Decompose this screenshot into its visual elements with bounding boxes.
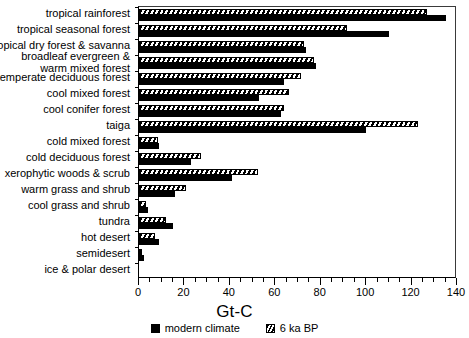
bar-modern-climate bbox=[139, 143, 159, 149]
bar-6-ka-bp bbox=[139, 169, 258, 175]
legend-label-6-ka-bp: 6 ka BP bbox=[280, 322, 319, 334]
x-axis-major-tick bbox=[183, 278, 184, 285]
x-axis-major-tick bbox=[320, 278, 321, 285]
category-label: tropical rainforest bbox=[46, 8, 130, 19]
category-label: semidesert bbox=[76, 248, 130, 259]
chart-legend: modern climate 6 ka BP bbox=[0, 322, 469, 334]
category-label: tundra bbox=[99, 216, 130, 227]
category-label: cold deciduous forest bbox=[26, 152, 130, 163]
legend-swatch-modern-climate-icon bbox=[151, 324, 160, 333]
y-axis-tick bbox=[135, 183, 139, 184]
category-label: warm grass and shrub bbox=[21, 184, 130, 195]
x-axis-minor-tick bbox=[172, 278, 173, 282]
y-axis-tick bbox=[135, 263, 139, 264]
category-label: cold mixed forest bbox=[47, 136, 130, 147]
bar-6-ka-bp bbox=[139, 185, 186, 191]
category-label: temperate deciduous forest bbox=[0, 72, 130, 83]
legend-item-6-ka-bp: 6 ka BP bbox=[266, 322, 319, 334]
x-axis-tick-label: 40 bbox=[223, 286, 235, 298]
bar-modern-climate bbox=[139, 127, 366, 133]
bar-modern-climate bbox=[139, 15, 446, 21]
x-axis-minor-tick bbox=[286, 278, 287, 282]
bar-6-ka-bp bbox=[139, 105, 284, 111]
bar-6-ka-bp bbox=[139, 73, 301, 79]
y-axis-tick bbox=[135, 39, 139, 40]
y-axis-tick bbox=[135, 23, 139, 24]
x-axis-tick-label: 20 bbox=[177, 286, 189, 298]
category-label: cool conifer forest bbox=[43, 104, 130, 115]
y-axis-tick bbox=[135, 55, 139, 56]
bar-group bbox=[139, 135, 455, 151]
bar-group bbox=[139, 263, 455, 279]
bar-group bbox=[139, 151, 455, 167]
x-axis-tick-labels: 020406080100120140 bbox=[118, 286, 469, 302]
bar-modern-climate bbox=[139, 95, 259, 101]
bar-group bbox=[139, 55, 455, 71]
bar-modern-climate bbox=[139, 31, 389, 37]
bar-group bbox=[139, 167, 455, 183]
y-axis-tick bbox=[135, 135, 139, 136]
bar-group bbox=[139, 119, 455, 135]
bar-modern-climate bbox=[139, 223, 173, 229]
y-axis-tick bbox=[135, 71, 139, 72]
bar-modern-climate bbox=[139, 191, 175, 197]
x-axis-major-tick bbox=[456, 278, 457, 285]
x-axis-minor-tick bbox=[161, 278, 162, 282]
x-axis-major-tick bbox=[365, 278, 366, 285]
x-axis-title: Gt-C bbox=[0, 302, 469, 322]
x-axis-minor-tick bbox=[149, 278, 150, 282]
bar-series-container bbox=[139, 7, 455, 277]
bar-group bbox=[139, 23, 455, 39]
x-axis-major-tick bbox=[138, 278, 139, 285]
y-axis-tick bbox=[135, 167, 139, 168]
bar-6-ka-bp bbox=[139, 201, 146, 207]
x-axis-major-tick bbox=[274, 278, 275, 285]
bar-group bbox=[139, 183, 455, 199]
bar-group bbox=[139, 71, 455, 87]
bar-group bbox=[139, 7, 455, 23]
x-axis-minor-tick bbox=[445, 278, 446, 282]
category-label: ice & polar desert bbox=[44, 264, 130, 275]
x-axis-major-tick bbox=[411, 278, 412, 285]
bar-modern-climate bbox=[139, 239, 159, 245]
x-axis-minor-tick bbox=[331, 278, 332, 282]
x-axis-tick-label: 120 bbox=[401, 286, 419, 298]
bar-6-ka-bp bbox=[139, 25, 347, 31]
category-label: tropical seasonal forest bbox=[17, 24, 130, 35]
bar-group bbox=[139, 87, 455, 103]
bar-modern-climate bbox=[139, 63, 316, 69]
x-axis-minor-tick bbox=[252, 278, 253, 282]
biome-carbon-bar-chart: tropical rainforesttropical seasonal for… bbox=[0, 0, 469, 338]
x-axis-minor-tick bbox=[297, 278, 298, 282]
bar-6-ka-bp bbox=[139, 9, 427, 15]
bar-modern-climate bbox=[139, 159, 191, 165]
bar-6-ka-bp bbox=[139, 41, 304, 47]
x-axis-minor-tick bbox=[218, 278, 219, 282]
x-axis-minor-tick bbox=[195, 278, 196, 282]
x-axis-tick-label: 0 bbox=[135, 286, 141, 298]
bar-6-ka-bp bbox=[139, 89, 289, 95]
x-axis-minor-tick bbox=[388, 278, 389, 282]
x-axis-tick-label: 60 bbox=[268, 286, 280, 298]
category-label: hot desert bbox=[81, 232, 130, 243]
x-axis-tick-label: 100 bbox=[356, 286, 374, 298]
category-label: cool mixed forest bbox=[47, 88, 130, 99]
x-axis-minor-tick bbox=[433, 278, 434, 282]
bar-6-ka-bp bbox=[139, 249, 142, 255]
bar-modern-climate bbox=[139, 255, 144, 261]
category-label: taiga bbox=[106, 120, 130, 131]
bar-group bbox=[139, 247, 455, 263]
x-axis-minor-tick bbox=[377, 278, 378, 282]
bar-modern-climate bbox=[139, 111, 281, 117]
y-axis-tick bbox=[135, 7, 139, 8]
bar-modern-climate bbox=[139, 79, 284, 85]
bar-group bbox=[139, 231, 455, 247]
category-label: xerophytic woods & scrub bbox=[5, 168, 130, 179]
x-axis-minor-tick bbox=[422, 278, 423, 282]
x-axis-tick-label: 80 bbox=[314, 286, 326, 298]
legend-swatch-6-ka-bp-icon bbox=[266, 324, 275, 333]
y-axis-tick bbox=[135, 199, 139, 200]
bar-group bbox=[139, 215, 455, 231]
x-axis-minor-tick bbox=[240, 278, 241, 282]
x-axis-minor-tick bbox=[342, 278, 343, 282]
